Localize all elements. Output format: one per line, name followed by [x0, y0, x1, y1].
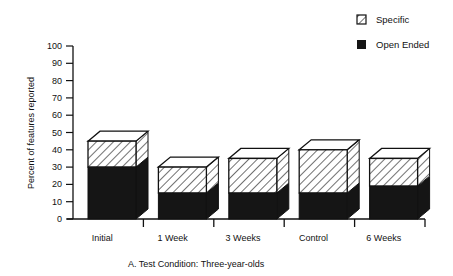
specific-segment [88, 141, 136, 167]
legend-label-specific: Specific [376, 14, 410, 25]
specific-segment [370, 158, 418, 186]
bar-6-weeks [370, 148, 430, 219]
bar-control [299, 140, 359, 219]
open-ended-segment [370, 186, 418, 219]
bar-1-week [158, 157, 218, 219]
x-category-label: 6 Weeks [366, 233, 401, 243]
open-ended-segment [229, 193, 277, 219]
chart-caption: A. Test Condition: Three-year-olds [128, 259, 265, 269]
y-tick-label: 20 [52, 179, 62, 189]
y-axis-label: Percent of features reported [26, 77, 36, 189]
open-ended-segment [299, 193, 347, 219]
y-tick-label: 30 [52, 162, 62, 172]
x-category-label: Control [299, 233, 328, 243]
open-ended-segment [158, 193, 206, 219]
y-tick-label: 50 [52, 128, 62, 138]
legend-item-specific: Specific [357, 14, 410, 25]
bars [88, 131, 430, 219]
open-ended-side [136, 157, 148, 219]
bar-initial [88, 131, 148, 219]
x-category-label: 1 Week [157, 233, 188, 243]
y-tick-label: 60 [52, 110, 62, 120]
legend: Specific Open Ended [357, 14, 429, 50]
y-tick-label: 70 [52, 93, 62, 103]
open-ended-segment [88, 167, 136, 219]
specific-segment [229, 158, 277, 193]
y-tick-label: 0 [57, 214, 62, 224]
x-category-label: Initial [92, 233, 113, 243]
y-tick-label: 80 [52, 76, 62, 86]
specific-segment [299, 150, 347, 193]
y-tick-label: 10 [52, 197, 62, 207]
legend-item-open-ended: Open Ended [357, 39, 429, 50]
category-labels: Initial1 Week3 WeeksControl6 Weeks [92, 233, 402, 243]
bar-3-weeks [229, 148, 289, 219]
stacked-bar-chart: Specific Open Ended Percent of features … [0, 0, 453, 276]
legend-label-open-ended: Open Ended [376, 39, 429, 50]
y-tick-label: 100 [47, 41, 62, 51]
specific-swatch-icon [357, 15, 366, 24]
open-ended-swatch-icon [357, 40, 366, 49]
specific-segment [158, 167, 206, 193]
y-tick-label: 40 [52, 145, 62, 155]
y-tick-label: 90 [52, 58, 62, 68]
x-category-label: 3 Weeks [226, 233, 261, 243]
